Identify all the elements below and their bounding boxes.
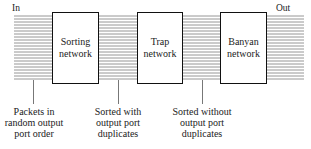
sorted-no-duplicates-wire-bundle xyxy=(182,15,221,81)
trap-network-label-2: network xyxy=(144,48,177,60)
sorting-network-label-2: network xyxy=(59,48,92,60)
sorting-network-label: Sorting xyxy=(59,36,92,48)
sorted-duplicates-wire-bundle xyxy=(98,15,138,81)
output-wire-bundle xyxy=(266,15,304,81)
sorting-network-box: Sorting network xyxy=(52,12,99,84)
annotation-sorted-without-duplicates: Sorted without output port duplicates xyxy=(168,106,236,139)
output-label: Out xyxy=(276,3,290,13)
banyan-network-label: Banyan xyxy=(227,36,260,48)
input-wire-bundle xyxy=(14,15,53,81)
trap-network-box: Trap network xyxy=(137,12,183,84)
trap-output-pointer-line xyxy=(202,80,203,104)
middle-pointer-line xyxy=(118,80,119,104)
banyan-network-box: Banyan network xyxy=(220,12,267,84)
input-pointer-line xyxy=(33,80,34,104)
banyan-network-label-2: network xyxy=(227,48,260,60)
annotation-sorted-with-duplicates: Sorted with output port duplicates xyxy=(88,106,148,139)
annotation-packets-random: Packets in random output port order xyxy=(4,106,64,139)
trap-network-label: Trap xyxy=(144,36,177,48)
input-label: In xyxy=(12,3,20,13)
